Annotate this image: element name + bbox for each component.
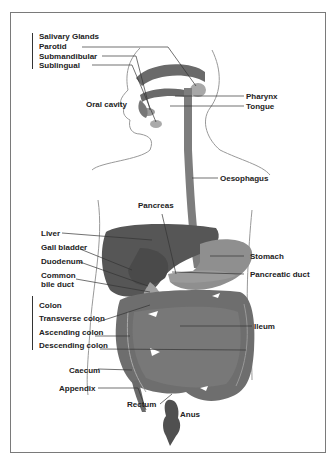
label-parotid: Parotid [39,42,67,52]
label-liver: Liver [41,229,60,239]
label-ascending-colon: Ascending colon [39,328,103,338]
label-duodenum: Duodenum [41,257,83,267]
label-ileum: Ileum [254,322,275,332]
label-transverse-colon: Transverse colon [39,314,105,324]
label-pancreatic-duct: Pancreatic duct [250,270,310,280]
label-rectum: Rectum [127,400,156,410]
salivary-group-bar [32,33,33,69]
label-anus: Anus [180,410,200,420]
label-pancreas: Pancreas [138,201,174,211]
label-appendix: Appendix [59,384,95,394]
label-oral-cavity: Oral cavity [86,100,127,110]
label-oesophagus: Oesophagus [220,174,268,184]
neck-back-outline [205,50,270,175]
label-descending-colon: Descending colon [39,341,108,351]
rectum-shape [163,400,180,446]
label-caecum: Caecum [69,366,100,376]
label-colon: Colon [39,301,62,311]
colon-group-bar [32,296,33,350]
label-gall-bladder: Gall bladder [41,243,87,253]
label-sublingual: Sublingual [39,61,80,71]
label-stomach: Stomach [250,252,284,262]
label-tongue: Tongue [246,102,274,112]
label-common-bile-duct-line2: bile duct [41,280,74,290]
label-salivary-glands: Salivary Glands [39,32,99,42]
small-intestine-shape [133,307,241,388]
label-pharynx: Pharynx [246,92,278,102]
